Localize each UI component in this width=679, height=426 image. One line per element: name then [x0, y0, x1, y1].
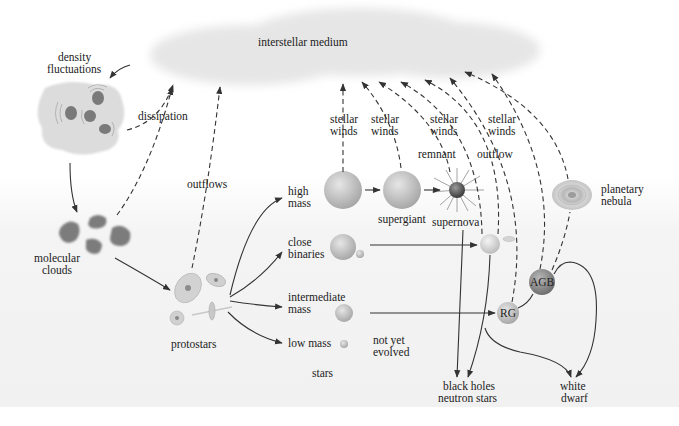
molecular-label-2: clouds	[42, 264, 73, 276]
agb-label: AGB	[530, 276, 555, 288]
intermediate-mass-star	[335, 304, 353, 322]
stellar-winds-d-1: stellar	[488, 113, 516, 125]
neutron-stars-label: neutron stars	[438, 392, 498, 404]
binary-accretion-disk	[503, 237, 515, 242]
close-binary-primary	[330, 234, 356, 260]
supernova-label: supernova	[432, 216, 479, 229]
low-mass-star	[340, 340, 348, 348]
density-label-2: fluctuations	[47, 63, 102, 75]
intermediate-mass-label-2: mass	[288, 303, 312, 315]
stellar-winds-c-1: stellar	[430, 113, 458, 125]
rg-label: RG	[500, 307, 516, 319]
arrow-dissipation	[127, 85, 173, 130]
arrow-ism-to-density	[110, 65, 130, 78]
density-fluctuations-node	[38, 82, 125, 154]
planetary-nebula-label-2: nebula	[601, 195, 632, 207]
white-label: white	[560, 380, 586, 392]
black-holes-label: black holes	[443, 380, 496, 392]
not-yet-evolved-label-2: evolved	[373, 346, 410, 358]
intermediate-mass-label-1: intermediate	[288, 291, 345, 303]
stellar-winds-d-2: winds	[488, 125, 516, 137]
remnant-label: remnant	[418, 148, 456, 160]
binary-evolved-star	[480, 234, 500, 254]
protostars-label: protostars	[171, 338, 217, 351]
molecular-label-1: molecular	[34, 252, 80, 264]
high-mass-label-2: mass	[288, 197, 312, 209]
stellar-lifecycle-diagram: interstellar medium density fluctuations…	[0, 0, 679, 426]
close-binaries-label-2: binaries	[288, 248, 325, 260]
supernova-core	[449, 182, 465, 198]
stellar-winds-a-1: stellar	[330, 113, 358, 125]
high-mass-star	[324, 171, 362, 209]
stellar-winds-c-2: winds	[430, 125, 458, 137]
close-binaries-label-1: close	[288, 236, 312, 248]
stars-label: stars	[312, 367, 334, 379]
stellar-winds-b-2: winds	[371, 125, 399, 137]
low-mass-label: low mass	[288, 337, 332, 349]
arrow-nebula-to-ism	[465, 72, 568, 179]
stellar-winds-b-1: stellar	[371, 113, 399, 125]
supergiant-label: supergiant	[378, 213, 427, 226]
stellar-winds-a-2: winds	[330, 125, 358, 137]
supergiant-star	[383, 171, 421, 209]
close-binary-secondary	[356, 250, 364, 258]
dissipation-label: dissipation	[138, 110, 188, 123]
ism-label: interstellar medium	[258, 36, 348, 48]
nebula-core	[568, 192, 576, 198]
dwarf-label: dwarf	[561, 392, 588, 404]
